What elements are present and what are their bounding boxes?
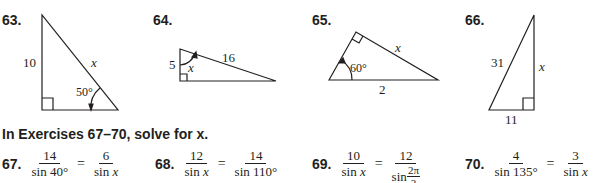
equals-sign: = (547, 156, 555, 172)
equals-sign: = (218, 156, 226, 172)
fraction-left: 10 sin x (337, 148, 369, 180)
triangle-65 (329, 32, 438, 80)
fraction-2pi-over-3: 2π 3 (407, 164, 421, 183)
exercise-number-66: 66. (465, 12, 484, 28)
side-label-x: x (395, 40, 401, 56)
fraction-left: 4 sin 135° (490, 148, 541, 180)
hypotenuse-label-31: 31 (491, 55, 504, 71)
equals-sign: = (77, 156, 85, 172)
angle-label-x: x (188, 60, 194, 76)
equation-67: 67. 14 sin 40° = 6 sin x (2, 148, 122, 180)
exercise-number-67: 67. (2, 156, 21, 172)
equation-68: 68. 12 sin x = 14 sin 110° (155, 148, 281, 180)
fraction-right: 3 sin x (560, 148, 592, 180)
fraction-right: 14 sin 110° (231, 148, 282, 180)
side-label-x: x (539, 59, 545, 75)
hypotenuse-label-16: 16 (222, 50, 235, 66)
equation-70: 70. 4 sin 135° = 3 sin x (465, 148, 592, 180)
instructions-heading: In Exercises 67–70, solve for x. (2, 126, 208, 142)
fraction-right: 12 sin 2π 3 (388, 148, 425, 183)
fraction-left: 12 sin x (180, 148, 212, 180)
figures-drawing (0, 0, 594, 125)
angle-label-50: 50° (76, 85, 93, 100)
fraction-right: 6 sin x (90, 148, 122, 180)
fraction-left: 14 sin 40° (27, 148, 72, 180)
equation-69: 69. 10 sin x = 12 sin 2π 3 (312, 148, 424, 183)
angle-label-60: 60° (350, 61, 367, 76)
side-label-5: 5 (169, 57, 176, 73)
exercise-number-63: 63. (2, 12, 21, 28)
exercise-number-64: 64. (153, 12, 172, 28)
base-label-2: 2 (379, 82, 386, 98)
side-label-10: 10 (23, 55, 36, 71)
exercise-number-70: 70. (465, 156, 484, 172)
exercise-number-69: 69. (312, 156, 331, 172)
exercise-number-65: 65. (312, 12, 331, 28)
hypotenuse-label-x: x (91, 55, 97, 71)
equals-sign: = (375, 156, 383, 172)
base-label-11: 11 (505, 112, 518, 128)
exercise-number-68: 68. (155, 156, 174, 172)
